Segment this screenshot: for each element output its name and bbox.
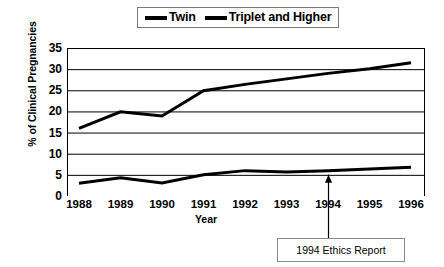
- annotation-label: 1994 Ethics Report: [296, 245, 385, 256]
- legend-label-triplet-and-higher: Triplet and Higher: [229, 11, 332, 24]
- plot-svg: [67, 48, 425, 196]
- series-line: [79, 63, 411, 129]
- legend-label-twin: Twin: [169, 11, 196, 24]
- annotation-callout: 1994 Ethics Report: [277, 238, 405, 262]
- y-tick-label: 10: [36, 148, 62, 160]
- x-tick-label: 1996: [385, 199, 437, 211]
- y-tick-label: 25: [36, 84, 62, 96]
- chart-legend: Twin Triplet and Higher: [137, 7, 339, 28]
- x-axis-title: Year: [176, 213, 236, 225]
- line-marker-icon: [145, 16, 167, 20]
- line-marker-icon: [205, 16, 227, 20]
- y-tick-label: 20: [36, 105, 62, 117]
- y-tick-label: 5: [36, 169, 62, 181]
- y-tick-label: 30: [36, 63, 62, 75]
- line-chart: Twin Triplet and Higher % of Clinical Pr…: [0, 0, 444, 267]
- plot-area: [67, 48, 425, 196]
- legend-item-triplet-and-higher: Triplet and Higher: [205, 11, 332, 24]
- y-axis-tick-labels: 05101520253035: [30, 48, 62, 196]
- y-tick-label: 35: [36, 42, 62, 54]
- legend-item-twin: Twin: [145, 11, 196, 24]
- x-axis-tick-labels: 198819891990199119921993199419951996: [67, 199, 425, 215]
- y-tick-label: 15: [36, 127, 62, 139]
